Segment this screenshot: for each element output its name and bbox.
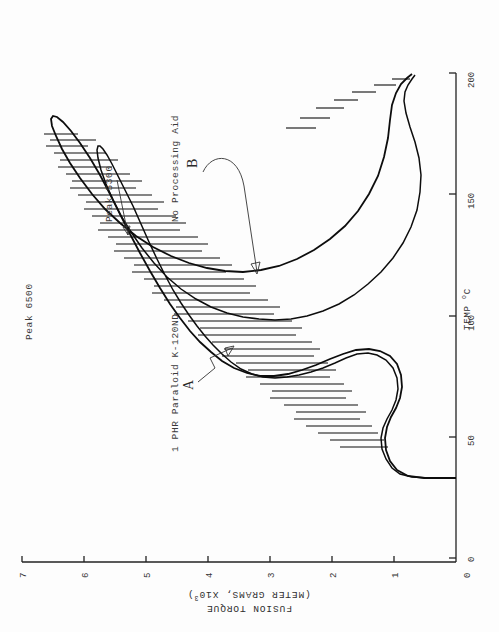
torque-tick-2: 2 — [329, 573, 339, 578]
torque-tick-0: 0 — [463, 573, 473, 578]
torque-axis-ticks — [22, 556, 394, 562]
trace-paraloid-k120nd — [51, 74, 456, 478]
temp-tick-150: 150 — [467, 193, 477, 209]
marker-b: B — [185, 159, 200, 168]
svg-text:TEMP oC: TEMP oC — [461, 288, 473, 330]
label-peak-6500: Peak 6500 — [24, 283, 35, 340]
torque-axis-title-line1: FUSION TORQUE — [206, 603, 292, 614]
trace-noise-band — [44, 79, 410, 447]
trace-no-processing-aid — [97, 75, 456, 478]
torque-axis: 7 6 5 4 3 2 1 0 — [19, 556, 473, 578]
fusion-torque-chart: 7 6 5 4 3 2 1 0 0 50 100 150 200 — [0, 0, 499, 632]
torque-axis-title-line2: (METER GRAMS, X103) — [187, 589, 311, 601]
label-paraloid-k120nd: 1 PHR Paraloid K-120ND — [170, 313, 181, 452]
figure-page: 7 6 5 4 3 2 1 0 0 50 100 150 200 — [0, 0, 499, 632]
torque-tick-7: 7 — [19, 573, 29, 578]
torque-tick-3: 3 — [267, 573, 277, 578]
temp-tick-200: 200 — [467, 72, 477, 88]
torque-tick-1: 1 — [391, 573, 401, 578]
torque-axis-title: FUSION TORQUE (METER GRAMS, X103) — [187, 589, 311, 614]
temp-axis-title-suffix: C — [463, 288, 473, 294]
temp-axis-title-prefix: TEMP — [463, 299, 473, 330]
torque-tick-4: 4 — [205, 573, 215, 578]
temp-axis-ticks — [449, 73, 456, 558]
label-no-processing-aid: No Processing Aid — [170, 115, 181, 222]
temp-axis-title: TEMP oC — [461, 288, 473, 330]
temp-tick-50: 50 — [467, 435, 477, 446]
torque-title-suffix: ) — [187, 589, 194, 600]
torque-title-prefix: (METER GRAMS, X10 — [199, 589, 311, 600]
temp-axis: 0 50 100 150 200 TEMP oC — [449, 72, 477, 562]
torque-tick-6: 6 — [81, 573, 91, 578]
temp-tick-0: 0 — [467, 557, 477, 562]
label-peak-5300: Peak 5300 — [104, 165, 115, 222]
marker-a: A — [181, 379, 196, 390]
leader-b-arrow — [203, 158, 260, 274]
torque-tick-5: 5 — [143, 573, 153, 578]
